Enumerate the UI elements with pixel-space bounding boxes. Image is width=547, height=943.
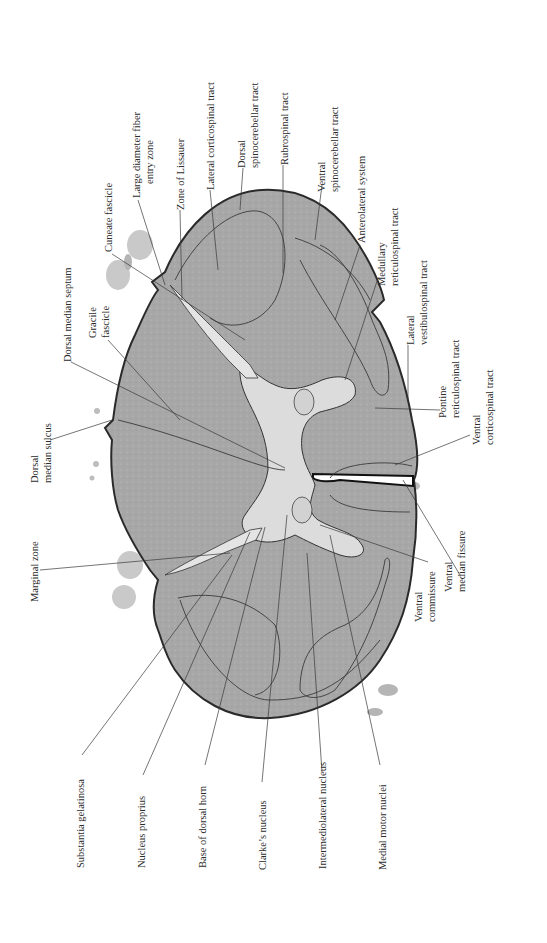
svg-text:Pontine: Pontine [437, 386, 448, 418]
svg-text:Dorsal median septum: Dorsal median septum [62, 268, 73, 362]
label-base-of-dorsal-horn: Base of dorsal horn [197, 785, 208, 868]
label-substantia-gelatinosa: Substantia gelatinosa [75, 779, 86, 868]
svg-text:reticulospinal tract: reticulospinal tract [389, 207, 400, 286]
svg-text:entry zone: entry zone [144, 140, 155, 184]
label-dorsal-spinocerebellar-tract: Dorsal spinocerebellar tract [236, 83, 260, 168]
label-clarkes-nucleus: Clarke’s nucleus [257, 800, 268, 870]
svg-text:Ventral: Ventral [471, 415, 482, 445]
label-medial-motor-nuclei: Medial motor nuclei [377, 784, 388, 870]
svg-text:Dorsal: Dorsal [29, 455, 40, 483]
svg-text:reticulospinal tract: reticulospinal tract [450, 339, 461, 418]
svg-text:Nucleus proprius: Nucleus proprius [136, 796, 147, 868]
label-marginal-zone: Marginal zone [29, 541, 40, 602]
svg-text:Lateral: Lateral [405, 315, 416, 345]
svg-text:Gracile: Gracile [87, 307, 98, 338]
label-nucleus-proprius: Nucleus proprius [136, 796, 147, 868]
svg-text:Ventral: Ventral [443, 562, 454, 592]
svg-text:Rubrospinal tract: Rubrospinal tract [279, 92, 290, 165]
svg-text:spinocerebellar tract: spinocerebellar tract [329, 107, 340, 192]
label-lateral-corticospinal-tract: Lateral corticospinal tract [205, 82, 216, 190]
svg-text:Large diameter fiber: Large diameter fiber [131, 111, 142, 198]
svg-text:spinocerebellar tract: spinocerebellar tract [249, 83, 260, 168]
svg-text:Dorsal: Dorsal [236, 140, 247, 168]
label-ventral-spinocerebellar-tract: Ventral spinocerebellar tract [316, 107, 340, 192]
white-matter [105, 190, 418, 718]
svg-text:Ventral: Ventral [316, 162, 327, 192]
clarkes-column-lower [292, 497, 312, 523]
label-ventral-corticospinal-tract: Ventral corticospinal tract [471, 369, 495, 445]
label-ventral-median-fissure: Ventral median fissure [443, 530, 467, 592]
svg-text:fascicle: fascicle [100, 306, 111, 338]
svg-text:Anterolateral system: Anterolateral system [356, 156, 367, 243]
svg-text:Medullary: Medullary [376, 242, 387, 286]
label-dorsal-median-septum: Dorsal median septum [62, 268, 73, 362]
svg-text:corticospinal tract: corticospinal tract [484, 369, 495, 445]
svg-text:Base of dorsal horn: Base of dorsal horn [197, 785, 208, 868]
label-rubrospinal-tract: Rubrospinal tract [279, 92, 290, 165]
svg-text:Medial motor nuclei: Medial motor nuclei [377, 784, 388, 870]
label-pontine-reticulospinal-tract: Pontine reticulospinal tract [437, 339, 461, 418]
spinal-cord-diagram: Cuneate fascicle Large diameter fiber en… [0, 0, 547, 943]
svg-text:commissure: commissure [426, 571, 437, 622]
clarkes-column-upper [294, 389, 314, 415]
svg-text:Zone of Lissauer: Zone of Lissauer [175, 138, 186, 210]
svg-text:median fissure: median fissure [456, 530, 467, 592]
label-ventral-commissure: Ventral commissure [413, 571, 437, 622]
svg-text:Marginal zone: Marginal zone [29, 541, 40, 602]
label-anterolateral-system: Anterolateral system [356, 156, 367, 243]
label-large-diameter-fiber-entry-zone: Large diameter fiber entry zone [131, 111, 155, 198]
label-gracile-fascicle: Gracile fascicle [87, 306, 111, 338]
label-zone-of-lissauer: Zone of Lissauer [175, 138, 186, 210]
label-medullary-reticulospinal-tract: Medullary reticulospinal tract [376, 207, 400, 286]
svg-text:Lateral corticospinal tract: Lateral corticospinal tract [205, 82, 216, 190]
svg-text:Substantia gelatinosa: Substantia gelatinosa [75, 779, 86, 868]
svg-text:Cuneate fascicle: Cuneate fascicle [103, 183, 114, 252]
label-lateral-vestibulospinal-tract: Lateral vestibulospinal tract [405, 260, 429, 345]
label-cuneate-fascicle: Cuneate fascicle [103, 183, 114, 252]
svg-text:median sulcus: median sulcus [42, 423, 53, 483]
label-intermediolateral-nucleus: Intermediolateral nucleus [317, 762, 328, 869]
svg-text:Ventral: Ventral [413, 592, 424, 622]
svg-text:vestibulospinal tract: vestibulospinal tract [418, 260, 429, 345]
svg-text:Clarke’s nucleus: Clarke’s nucleus [257, 800, 268, 870]
label-dorsal-median-sulcus: Dorsal median sulcus [29, 423, 53, 483]
svg-text:Intermediolateral nucleus: Intermediolateral nucleus [317, 762, 328, 869]
